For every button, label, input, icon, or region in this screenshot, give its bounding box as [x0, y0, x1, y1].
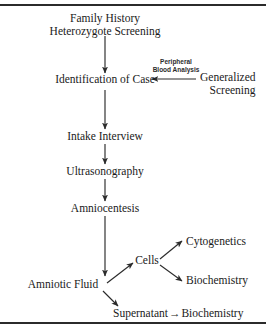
node-cells: Cells [135, 254, 159, 267]
node-amniotic-fluid: Amniotic Fluid [28, 278, 99, 291]
edge-cells-to-biochemistry [160, 265, 182, 281]
node-biochemistry-from-cells: Biochemistry [186, 274, 248, 287]
edge-amniotic-fluid-to-supernatant [103, 291, 118, 306]
node-amniocentesis: Amniocentesis [71, 202, 139, 215]
node-generalized-screening: Generalized Screening [200, 71, 256, 97]
edge-label-blood-analysis: Blood Analysis [153, 66, 200, 74]
node-identification-of-case: Identification of Case [55, 73, 155, 86]
node-family-history-line1: Family History [50, 12, 161, 25]
top-rule [0, 4, 266, 6]
node-supernatant-row: Supernatant→Biochemistry [113, 307, 243, 320]
node-intake-interview: Intake Interview [67, 130, 143, 143]
edge-amniotic-fluid-to-cells [107, 263, 133, 283]
node-generalized-line1: Generalized [200, 71, 256, 84]
node-biochemistry-from-supernatant: Biochemistry [181, 307, 243, 319]
flowchart-figure: Family History Heterozygote Screening Id… [0, 0, 266, 330]
edge-label-peripheral: Peripheral [153, 58, 200, 66]
edge-cells-to-cytogenetics [160, 241, 182, 259]
node-heterozygote-screening-line2: Heterozygote Screening [50, 25, 161, 38]
node-supernatant: Supernatant [113, 307, 168, 319]
node-family-history: Family History Heterozygote Screening [50, 12, 161, 38]
inline-right-arrow-icon: → [168, 307, 182, 319]
edge-label-peripheral-blood-analysis: Peripheral Blood Analysis [153, 58, 200, 73]
bottom-rule [0, 322, 266, 324]
node-screening-line2: Screening [200, 84, 256, 97]
node-cytogenetics: Cytogenetics [186, 235, 246, 248]
node-ultrasonography: Ultrasonography [66, 165, 143, 178]
